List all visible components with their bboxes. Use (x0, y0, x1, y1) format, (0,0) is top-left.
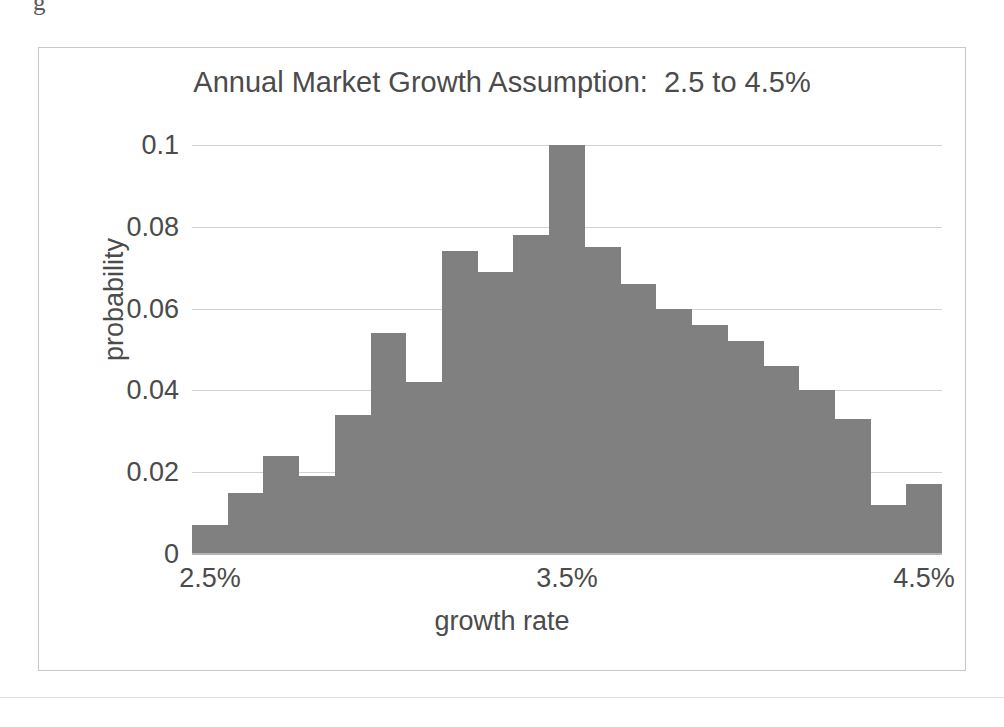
scan-underline (0, 697, 1004, 698)
scan-edge-artifact: g (33, 0, 47, 16)
x-axis-title: growth rate (39, 606, 965, 637)
histogram-bar (549, 145, 585, 554)
x-axis-tick-label: 2.5% (179, 563, 241, 594)
histogram-bar (478, 272, 514, 554)
histogram-bar (406, 382, 442, 554)
x-axis-tick-labels: 2.5%3.5%4.5% (192, 563, 942, 603)
histogram-bar (906, 484, 942, 554)
histogram-bar (192, 525, 228, 554)
x-axis-line (192, 553, 942, 555)
histogram-bar (835, 419, 871, 554)
x-axis-tick-label: 4.5% (893, 563, 955, 594)
histogram-bar (692, 325, 728, 554)
chart-frame: Annual Market Growth Assumption: 2.5 to … (38, 47, 966, 671)
histogram-bar (728, 341, 764, 554)
y-axis-tick-label: 0 (164, 539, 179, 570)
y-axis-tick-label: 0.06 (126, 293, 179, 324)
plot-area (192, 145, 942, 554)
y-axis-tick-label: 0.08 (126, 211, 179, 242)
histogram-bar (263, 456, 299, 554)
histogram-bar (442, 251, 478, 554)
histogram-bar (799, 390, 835, 554)
histogram-bars (192, 145, 942, 554)
y-axis-tick-labels: 0.10.080.060.040.020 (67, 145, 179, 554)
chart-title: Annual Market Growth Assumption: 2.5 to … (39, 66, 965, 99)
histogram-bar (299, 476, 335, 554)
histogram-bar (513, 235, 549, 554)
histogram-bar (228, 493, 264, 554)
histogram-bar (585, 247, 621, 554)
y-axis-tick-label: 0.04 (126, 375, 179, 406)
y-axis-tick-label: 0.1 (141, 130, 179, 161)
histogram-bar (871, 505, 907, 554)
histogram-bar (371, 333, 407, 554)
histogram-bar (335, 415, 371, 554)
histogram-bar (621, 284, 657, 554)
histogram-bar (656, 309, 692, 554)
y-axis-tick-label: 0.02 (126, 457, 179, 488)
x-axis-tick-label: 3.5% (536, 563, 598, 594)
histogram-bar (764, 366, 800, 554)
